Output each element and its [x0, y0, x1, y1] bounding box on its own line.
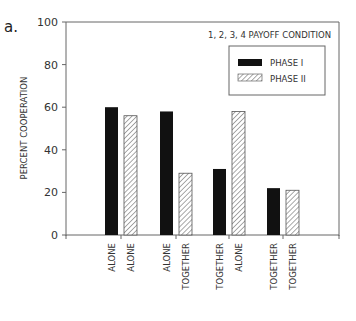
- x-category-label: TOGETHER: [269, 243, 279, 291]
- panel-label: a.: [4, 18, 18, 36]
- bar-phase-2: [124, 116, 137, 235]
- bar-phase-1: [105, 107, 118, 235]
- legend: PHASE I PHASE II: [229, 46, 325, 95]
- legend-swatch-phase-2: [238, 74, 262, 81]
- legend-box: [229, 46, 325, 95]
- y-tick-label: 100: [37, 16, 58, 29]
- legend-label-phase-2: PHASE II: [270, 74, 306, 84]
- bars: [105, 107, 299, 235]
- x-category-label: ALONE: [234, 243, 244, 272]
- y-tick-label: 60: [44, 101, 58, 114]
- legend-swatch-phase-1: [238, 59, 262, 66]
- x-category-label: TOGETHER: [215, 243, 225, 291]
- y-tick-label: 0: [51, 229, 58, 242]
- legend-label-phase-1: PHASE I: [270, 58, 303, 68]
- bar-phase-2: [286, 190, 299, 235]
- y-axis-title: PERCENT COOPERATION: [19, 77, 29, 180]
- bar-chart: a. 020406080100 ALONEALONEALONETOGETHERT…: [0, 0, 356, 321]
- y-tick-label: 20: [44, 186, 58, 199]
- bar-phase-1: [213, 169, 226, 235]
- x-category-label: ALONE: [107, 243, 117, 272]
- x-axis: ALONEALONEALONETOGETHERTOGETHERALONETOGE…: [66, 235, 339, 291]
- bar-phase-2: [232, 111, 245, 235]
- y-axis: 020406080100: [37, 16, 66, 242]
- x-category-label: ALONE: [162, 243, 172, 272]
- bar-phase-1: [267, 188, 280, 235]
- bar-phase-2: [179, 173, 192, 235]
- condition-title: 1, 2, 3, 4 PAYOFF CONDITION: [208, 30, 331, 40]
- y-tick-label: 80: [44, 59, 58, 72]
- bar-phase-1: [160, 111, 173, 235]
- y-tick-label: 40: [44, 144, 58, 157]
- x-category-label: TOGETHER: [181, 243, 191, 291]
- x-category-label: ALONE: [126, 243, 136, 272]
- x-category-label: TOGETHER: [288, 243, 298, 291]
